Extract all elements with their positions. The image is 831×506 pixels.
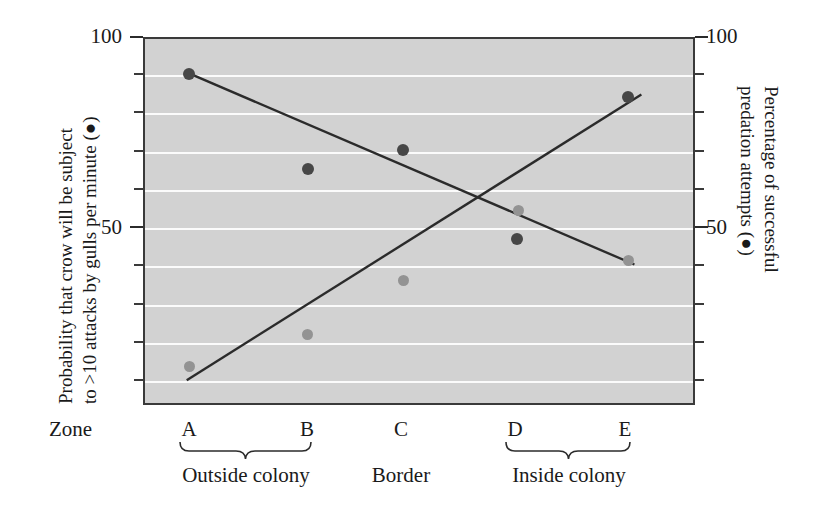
left-axis-tick-label-100: 100 (91, 26, 123, 47)
data-point-light-A (184, 361, 195, 372)
brace-outside-colony (178, 440, 313, 460)
left-axis-title-line2: to >10 attacks by gulls per minute (●) (78, 116, 102, 404)
left-tick-70 (134, 150, 143, 152)
data-point-dark-E (622, 91, 634, 103)
trendline-increasing (187, 94, 642, 380)
zone-label-D: D (495, 419, 535, 440)
zone-axis-word: Zone (49, 419, 92, 440)
zone-group-label-outside-colony: Outside colony (176, 465, 316, 486)
left-tick-40 (134, 264, 143, 266)
zone-group-label-inside-colony: Inside colony (499, 465, 639, 486)
data-point-light-E (623, 255, 634, 266)
right-tick-10 (695, 379, 704, 381)
right-axis-tick-label-100: 100 (706, 26, 738, 47)
left-axis-tick-label-50: 50 (101, 217, 122, 238)
data-point-dark-D (511, 233, 523, 245)
gridline-90 (145, 75, 693, 77)
data-point-dark-A (183, 68, 195, 80)
left-tick-60 (134, 188, 143, 190)
zone-label-E: E (605, 419, 645, 440)
gridline-70 (145, 152, 693, 154)
right-tick-60 (695, 188, 704, 190)
zone-label-C: C (381, 419, 421, 440)
right-tick-100 (695, 36, 708, 38)
left-tick-80 (134, 111, 143, 113)
left-tick-100 (130, 36, 143, 38)
zone-label-B: B (287, 419, 327, 440)
chart-figure: Probability that crow will be subject to… (0, 0, 831, 506)
trendline-decreasing (190, 74, 635, 265)
right-tick-20 (695, 341, 704, 343)
left-tick-10 (134, 379, 143, 381)
right-axis-title-line1: Percentage of successful (759, 86, 783, 273)
left-tick-20 (134, 341, 143, 343)
left-tick-90 (134, 73, 143, 75)
gridline-60 (145, 190, 693, 192)
left-axis-title-line1: Probability that crow will be subject (54, 128, 78, 404)
brace-inside-colony (504, 440, 632, 460)
data-point-dark-B (302, 163, 314, 175)
data-point-light-B (302, 329, 313, 340)
zone-label-A: A (169, 419, 209, 440)
left-tick-50 (130, 226, 143, 228)
gridline-40 (145, 266, 693, 268)
gridline-20 (145, 343, 693, 345)
gridline-30 (145, 305, 693, 307)
right-tick-30 (695, 303, 704, 305)
data-point-dark-C (397, 144, 409, 156)
right-axis-title-line2: predation attempts (●) (735, 86, 759, 256)
right-axis-tick-label-50: 50 (706, 217, 727, 238)
right-tick-70 (695, 150, 704, 152)
plot-area (143, 37, 695, 405)
left-tick-30 (134, 303, 143, 305)
gridline-10 (145, 381, 693, 383)
gridline-50 (145, 228, 693, 230)
gridline-80 (145, 113, 693, 115)
data-point-light-C (398, 275, 409, 286)
trendlines-group (145, 39, 693, 403)
right-tick-40 (695, 264, 704, 266)
right-tick-90 (695, 73, 704, 75)
right-tick-50 (695, 226, 708, 228)
right-tick-80 (695, 111, 704, 113)
zone-group-label-border: Border (341, 465, 461, 486)
data-point-light-D (513, 205, 524, 216)
